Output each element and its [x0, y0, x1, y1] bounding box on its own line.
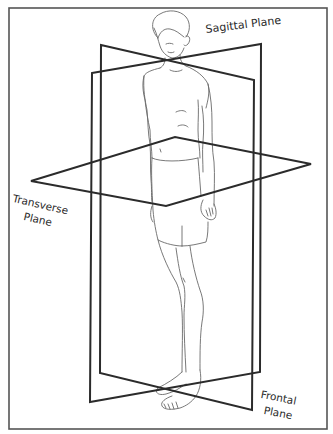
diagram-frame [9, 8, 327, 429]
